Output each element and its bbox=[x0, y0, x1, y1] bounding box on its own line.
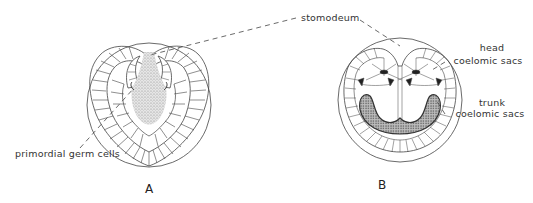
head-coelomic-sacs bbox=[358, 58, 442, 86]
embryo-diagram bbox=[0, 0, 533, 203]
label-stomodeum: stomodeum bbox=[301, 12, 360, 23]
panel-label-a: A bbox=[145, 182, 153, 196]
stomodeum-leader-a bbox=[150, 18, 296, 55]
label-head-coelomic-sacs-line1: head bbox=[462, 42, 522, 53]
label-trunk-coelomic-sacs-line1: trunk bbox=[462, 97, 522, 108]
label-head-coelomic-sacs-line2: coelomic sacs bbox=[448, 55, 528, 66]
label-trunk-coelomic-sacs-line2: coelomic sacs bbox=[450, 108, 530, 119]
embryo-b bbox=[338, 38, 462, 162]
trunk-coelomic-sacs bbox=[360, 95, 441, 134]
stomodeum-leader-b bbox=[360, 20, 400, 46]
label-primordial-germ-cells: primordial germ cells bbox=[15, 148, 120, 159]
panel-label-b: B bbox=[378, 178, 386, 192]
